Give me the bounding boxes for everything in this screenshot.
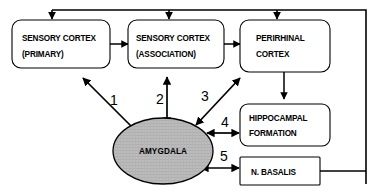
perirhinal-cortex-label-line2: CORTEX xyxy=(256,50,290,59)
sensory-cortex-primary-label-line2: (PRIMARY) xyxy=(22,50,64,59)
diagram-canvas: AMYGDALA SENSORY CORTEX (PRIMARY) SENSOR… xyxy=(0,0,376,194)
hippocampal-formation-label-line1: HIPPOCAMPAL xyxy=(249,114,307,123)
perirhinal-cortex-label-line1: PERIRHINAL xyxy=(256,34,305,43)
node-hippocampal-formation[interactable]: HIPPOCAMPAL FORMATION xyxy=(240,104,330,146)
diagram-svg: AMYGDALA SENSORY CORTEX (PRIMARY) SENSOR… xyxy=(0,0,376,194)
amygdala-label: AMYGDALA xyxy=(139,147,187,156)
pathway-4-number: 4 xyxy=(221,114,229,130)
pathway-3-number: 3 xyxy=(201,88,209,104)
node-nucleus-basalis[interactable]: N. BASALIS xyxy=(240,157,320,185)
hippocampal-formation-box-shape xyxy=(240,104,330,146)
node-sensory-cortex-primary[interactable]: SENSORY CORTEX (PRIMARY) xyxy=(12,20,110,68)
sensory-cortex-association-label-line1: SENSORY CORTEX xyxy=(136,34,211,43)
pathway-2-number: 2 xyxy=(156,91,164,107)
sensory-cortex-association-label-line2: (ASSOCIATION) xyxy=(136,50,196,59)
sensory-cortex-primary-label-line1: SENSORY CORTEX xyxy=(22,34,97,43)
sensory-cortex-primary-box-shape xyxy=(12,20,110,68)
pathway-5-number: 5 xyxy=(220,148,228,164)
nucleus-basalis-label: N. BASALIS xyxy=(251,168,297,177)
perirhinal-cortex-box-shape xyxy=(240,20,330,72)
hippocampal-formation-label-line2: FORMATION xyxy=(249,129,297,138)
node-amygdala[interactable]: AMYGDALA xyxy=(113,118,213,184)
sensory-cortex-association-box-shape xyxy=(128,20,224,68)
pathway-1-number: 1 xyxy=(110,92,118,108)
node-sensory-cortex-association[interactable]: SENSORY CORTEX (ASSOCIATION) xyxy=(128,20,224,68)
node-perirhinal-cortex[interactable]: PERIRHINAL CORTEX xyxy=(240,20,330,72)
